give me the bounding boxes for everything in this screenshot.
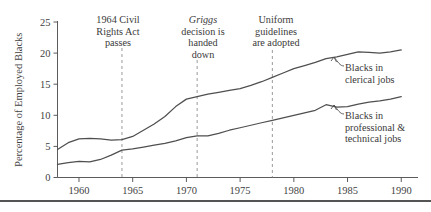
annotation-line: passes bbox=[84, 37, 152, 49]
annotation-line: down bbox=[167, 49, 239, 61]
x-tick-label: 1960 bbox=[68, 185, 89, 196]
series-label-clerical: Blacks inclerical jobs bbox=[345, 62, 395, 85]
x-tick-label: 1975 bbox=[230, 185, 251, 196]
y-tick-label: 0 bbox=[45, 172, 50, 183]
annotation-uniform-guidelines: Uniformguidelinesare adopted bbox=[238, 14, 314, 49]
y-tick-label: 5 bbox=[45, 141, 50, 152]
y-axis-title-text: Percentage of Employed Blacks bbox=[13, 33, 24, 167]
series-label-line: Blacks in bbox=[345, 110, 405, 122]
x-tick-label: 1965 bbox=[122, 185, 143, 196]
y-tick-label: 10 bbox=[40, 110, 51, 121]
leader-line-clerical bbox=[334, 57, 344, 66]
annotation-line: 1964 Civil bbox=[84, 14, 152, 26]
annotation-line: guidelines bbox=[238, 26, 314, 38]
annotation-line: Uniform bbox=[238, 14, 314, 26]
y-tick-label: 25 bbox=[40, 17, 51, 28]
annotation-line: are adopted bbox=[238, 37, 314, 49]
x-tick-label: 1990 bbox=[391, 185, 412, 196]
annotation-line: Griggs bbox=[167, 14, 239, 26]
figure-panel: 05101520251960196519701975198019851990 P… bbox=[0, 0, 431, 212]
bottom-divider-rule bbox=[0, 200, 431, 202]
series-label-line: technical jobs bbox=[345, 133, 405, 145]
annotation-line: decision is bbox=[167, 26, 239, 38]
y-axis-title: Percentage of Employed Blacks bbox=[13, 33, 24, 167]
series-label-professional: Blacks inprofessional &technical jobs bbox=[345, 110, 405, 145]
series-label-line: professional & bbox=[345, 122, 405, 134]
x-tick-label: 1980 bbox=[283, 185, 304, 196]
y-tick-label: 20 bbox=[40, 48, 51, 59]
x-tick-label: 1970 bbox=[176, 185, 197, 196]
series-label-line: Blacks in bbox=[345, 62, 395, 74]
annotation-line: handed bbox=[167, 37, 239, 49]
annotation-line: Rights Act bbox=[84, 26, 152, 38]
event-marker-lines bbox=[122, 48, 272, 178]
annotation-civil-rights-act: 1964 CivilRights Actpasses bbox=[84, 14, 152, 49]
annotation-griggs-decision: Griggsdecision ishandeddown bbox=[167, 14, 239, 60]
y-tick-label: 15 bbox=[40, 79, 51, 90]
x-tick-label: 1985 bbox=[337, 185, 358, 196]
label-leader-lines bbox=[331, 57, 344, 114]
series-label-line: clerical jobs bbox=[345, 74, 395, 86]
